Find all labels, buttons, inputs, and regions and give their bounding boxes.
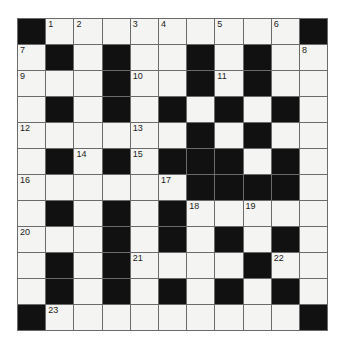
grid-cell[interactable]: 12 [18,123,45,148]
grid-cell[interactable] [131,227,158,252]
grid-cell[interactable] [74,305,101,330]
grid-cell[interactable]: 5 [215,19,242,44]
black-cell [187,175,214,200]
grid-cell[interactable] [18,253,45,278]
grid-cell[interactable] [18,279,45,304]
grid-cell[interactable] [272,71,299,96]
grid-cell[interactable] [159,305,186,330]
grid-cell[interactable]: 22 [272,253,299,278]
grid-cell[interactable] [46,227,73,252]
grid-cell[interactable] [244,149,271,174]
grid-cell[interactable] [300,227,327,252]
grid-cell[interactable]: 2 [74,19,101,44]
grid-cell[interactable] [159,123,186,148]
grid-cell[interactable] [74,71,101,96]
grid-cell[interactable] [272,305,299,330]
grid-cell[interactable]: 7 [18,45,45,70]
grid-cell[interactable] [187,227,214,252]
grid-cell[interactable]: 16 [18,175,45,200]
grid-cell[interactable] [103,305,130,330]
grid-cell[interactable]: 8 [300,45,327,70]
grid-cell[interactable] [74,201,101,226]
black-cell [159,227,186,252]
grid-cell[interactable] [215,123,242,148]
grid-cell[interactable] [103,175,130,200]
black-cell [103,227,130,252]
black-cell [103,71,130,96]
grid-cell[interactable] [74,227,101,252]
grid-cell[interactable]: 19 [244,201,271,226]
grid-cell[interactable] [300,279,327,304]
grid-cell[interactable]: 13 [131,123,158,148]
clue-number: 18 [189,201,199,211]
black-cell [272,279,299,304]
grid-cell[interactable] [131,305,158,330]
grid-cell[interactable] [46,71,73,96]
grid-cell[interactable] [18,97,45,122]
grid-cell[interactable]: 14 [74,149,101,174]
grid-cell[interactable] [187,305,214,330]
grid-cell[interactable]: 20 [18,227,45,252]
grid-cell[interactable] [300,149,327,174]
grid-cell[interactable] [300,71,327,96]
grid-cell[interactable] [74,253,101,278]
grid-cell[interactable]: 9 [18,71,45,96]
grid-cell[interactable] [187,253,214,278]
grid-cell[interactable] [244,19,271,44]
grid-cell[interactable] [215,253,242,278]
grid-cell[interactable] [131,45,158,70]
grid-cell[interactable] [74,45,101,70]
grid-cell[interactable] [300,175,327,200]
grid-cell[interactable] [272,45,299,70]
grid-cell[interactable]: 17 [159,175,186,200]
grid-cell[interactable]: 6 [272,19,299,44]
black-cell [46,97,73,122]
grid-cell[interactable] [272,123,299,148]
grid-cell[interactable] [300,97,327,122]
grid-cell[interactable] [300,123,327,148]
black-cell [46,253,73,278]
grid-cell[interactable]: 4 [159,19,186,44]
grid-cell[interactable] [131,279,158,304]
grid-cell[interactable] [74,97,101,122]
grid-cell[interactable] [131,201,158,226]
grid-cell[interactable]: 18 [187,201,214,226]
grid-cell[interactable] [131,175,158,200]
grid-cell[interactable] [300,201,327,226]
grid-cell[interactable] [103,19,130,44]
grid-cell[interactable] [187,97,214,122]
black-cell [272,227,299,252]
black-cell [187,149,214,174]
grid-cell[interactable] [18,149,45,174]
grid-cell[interactable] [215,201,242,226]
grid-cell[interactable]: 1 [46,19,73,44]
grid-cell[interactable] [244,305,271,330]
grid-cell[interactable] [74,279,101,304]
grid-cell[interactable]: 10 [131,71,158,96]
grid-cell[interactable] [215,305,242,330]
grid-cell[interactable] [300,253,327,278]
grid-cell[interactable] [244,279,271,304]
grid-cell[interactable]: 3 [131,19,158,44]
grid-cell[interactable] [159,45,186,70]
grid-cell[interactable]: 21 [131,253,158,278]
grid-cell[interactable] [159,71,186,96]
grid-cell[interactable] [103,123,130,148]
grid-cell[interactable]: 23 [46,305,73,330]
grid-cell[interactable] [272,201,299,226]
grid-cell[interactable] [244,97,271,122]
grid-cell[interactable] [74,123,101,148]
grid-cell[interactable] [18,201,45,226]
grid-cell[interactable] [244,227,271,252]
grid-cell[interactable] [215,45,242,70]
grid-cell[interactable] [46,123,73,148]
grid-cell[interactable] [187,19,214,44]
grid-cell[interactable] [46,175,73,200]
grid-cell[interactable]: 15 [131,149,158,174]
grid-cell[interactable] [159,253,186,278]
black-cell [244,123,271,148]
grid-cell[interactable]: 11 [215,71,242,96]
grid-cell[interactable] [74,175,101,200]
grid-cell[interactable] [187,279,214,304]
grid-cell[interactable] [131,97,158,122]
